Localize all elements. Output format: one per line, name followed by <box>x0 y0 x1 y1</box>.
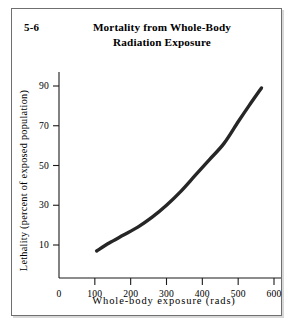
y-axis-tick-label: 10 <box>29 239 49 250</box>
figure-title-line-1: Mortality from Whole-Body <box>54 20 270 35</box>
figure-header: 5-6 Mortality from Whole-Body Radiation … <box>12 19 283 59</box>
figure-frame: 5-6 Mortality from Whole-Body Radiation … <box>11 8 282 316</box>
x-axis-tick-label: 0 <box>46 288 72 299</box>
y-axis-title: Lethality (percent of exposed population… <box>18 86 29 276</box>
y-axis-tick-label: 70 <box>29 120 49 131</box>
figure-title: Mortality from Whole-Body Radiation Expo… <box>54 20 270 50</box>
figure-page: 5-6 Mortality from Whole-Body Radiation … <box>0 0 295 330</box>
y-axis-tick-label: 30 <box>29 199 49 210</box>
figure-title-line-2: Radiation Exposure <box>54 35 270 50</box>
figure-number: 5-6 <box>24 21 39 33</box>
x-axis-tick-label: 200 <box>118 288 144 299</box>
y-axis-tick-label: 90 <box>29 80 49 91</box>
y-axis-tick-label: 50 <box>29 160 49 171</box>
x-axis-tick-label: 300 <box>154 288 180 299</box>
x-axis-tick-label: 400 <box>189 288 215 299</box>
x-axis-tick-label: 100 <box>82 288 108 299</box>
x-axis-tick-label: 600 <box>261 288 287 299</box>
x-axis-tick-label: 500 <box>225 288 251 299</box>
